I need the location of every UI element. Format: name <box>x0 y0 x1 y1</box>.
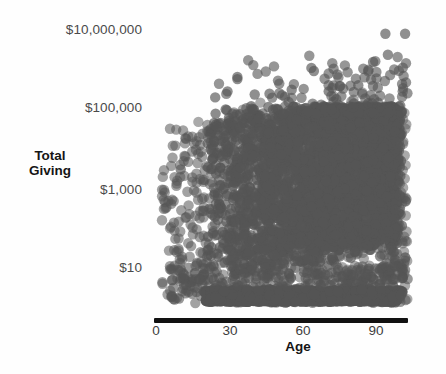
figure-caption <box>10 362 440 374</box>
y-axis-title: Total Giving <box>14 148 86 178</box>
y-axis-ticks: $10,000,000 $100,000 $1,000 $10 <box>0 0 150 374</box>
x-tick-label-0: 0 <box>152 323 160 338</box>
scatter-points-layer <box>150 8 446 320</box>
x-axis-title: Age <box>150 339 446 354</box>
y-axis-title-line1: Total <box>14 148 86 163</box>
x-tick-label-30: 30 <box>222 323 237 338</box>
scatter-figure: $10,000,000 $100,000 $1,000 $10 Total Gi… <box>0 0 446 374</box>
y-tick-label-10000000: $10,000,000 <box>66 22 142 37</box>
y-axis-title-line2: Giving <box>14 163 86 178</box>
x-tick-label-60: 60 <box>295 323 310 338</box>
y-tick-label-1000: $1,000 <box>100 182 142 197</box>
plot-area <box>150 8 446 320</box>
y-tick-label-100000: $100,000 <box>85 100 142 115</box>
y-tick-label-10: $10 <box>119 260 142 275</box>
x-tick-label-90: 90 <box>368 323 383 338</box>
scatter-point-group <box>157 29 413 309</box>
